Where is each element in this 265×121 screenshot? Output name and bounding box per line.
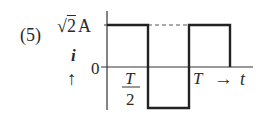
x-axis-label: t <box>240 70 245 88</box>
up-arrow-icon: ↑ <box>67 69 77 88</box>
half-period-denominator: 2 <box>126 91 135 108</box>
y-axis-label: i <box>71 47 76 64</box>
amplitude-label: √2A <box>57 17 91 35</box>
period-label: T <box>193 70 202 87</box>
zero-label: 0 <box>91 60 100 77</box>
right-arrow-icon: → <box>214 69 233 88</box>
sqrt-icon: √ <box>57 16 67 36</box>
problem-number: (5) <box>20 26 41 44</box>
half-period-numerator: T <box>125 70 134 87</box>
